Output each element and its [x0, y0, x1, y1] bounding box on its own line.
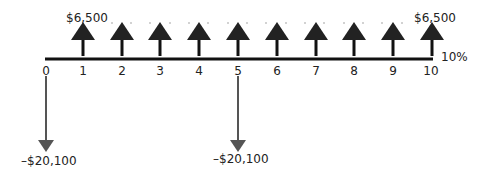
period-label: 6	[273, 64, 281, 78]
inflow-label-last: $6,500	[414, 11, 456, 25]
period-label: 5	[234, 64, 242, 78]
dotted-leader	[111, 22, 403, 24]
outflow-label-0: –$20,100	[21, 154, 77, 168]
period-label: 2	[118, 64, 126, 78]
period-label: 10	[423, 64, 438, 78]
outflow-arrows	[46, 76, 238, 146]
period-label: 0	[42, 64, 50, 78]
timeline-graphic	[0, 0, 484, 176]
period-label: 7	[312, 64, 320, 78]
interest-rate-label: 10%	[441, 50, 468, 64]
period-label: 8	[350, 64, 358, 78]
period-label: 1	[79, 64, 87, 78]
outflow-label-5: –$20,100	[213, 152, 269, 166]
inflow-label-first: $6,500	[66, 11, 108, 25]
inflow-arrows	[83, 31, 432, 56]
period-label: 4	[195, 64, 203, 78]
period-label: 9	[389, 64, 397, 78]
period-label: 3	[156, 64, 164, 78]
